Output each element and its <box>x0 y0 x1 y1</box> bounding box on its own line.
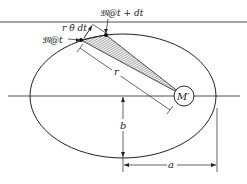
radius-dim-tick-end <box>167 106 173 114</box>
semi-major-label: a <box>168 159 174 170</box>
arc-leader <box>92 24 106 33</box>
semi-major-arrow-left <box>124 163 129 167</box>
point-t-dt <box>104 33 108 37</box>
semi-minor-arrow-top <box>121 97 125 102</box>
semi-minor-label: b <box>120 120 126 131</box>
semi-major-arrow-right <box>211 163 216 167</box>
point-t-dt-label: 𝔐@t + dt <box>100 8 144 18</box>
orbit-diagram: M′ r r θ̇ dt 𝔐@t 𝔐@t + dt b a <box>0 0 247 184</box>
swept-area <box>81 35 184 96</box>
arc-length-label: r θ̇ dt <box>62 23 87 33</box>
point-t-label: 𝔐@t <box>42 35 63 45</box>
radius-dim-tick-start <box>77 44 83 52</box>
focus-mass-label: M′ <box>176 91 190 102</box>
semi-minor-arrow-bottom <box>121 152 125 157</box>
arc-arrow-head <box>88 25 92 31</box>
